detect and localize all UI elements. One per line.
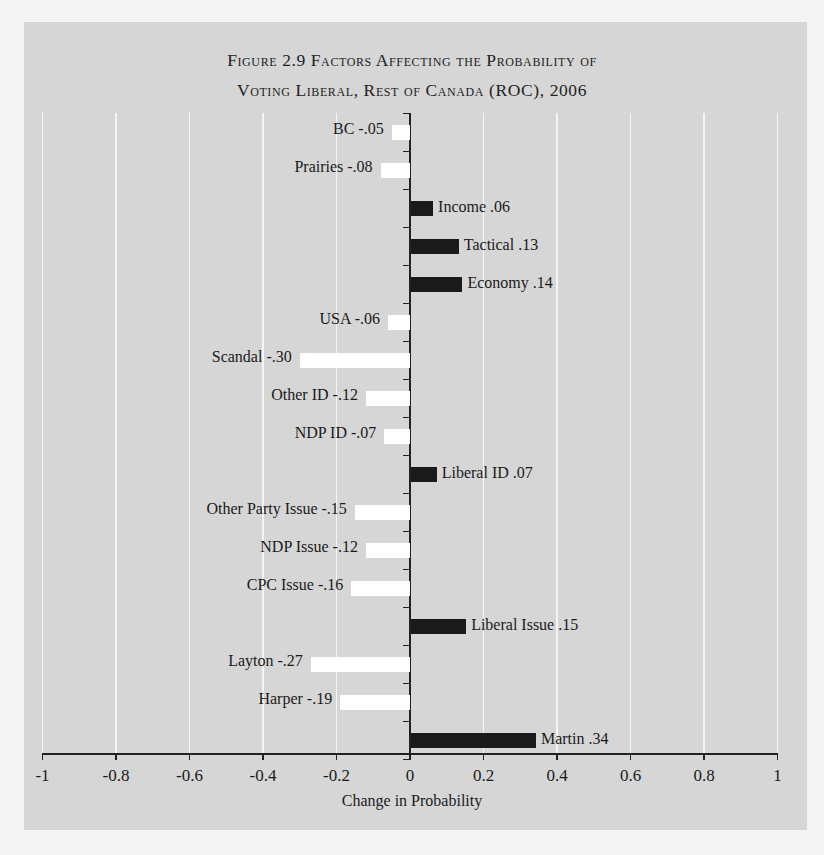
- bar-chart: -1-0.8-0.6-0.4-0.200.20.40.60.81BC -.05P…: [0, 0, 824, 855]
- bar-label: Martin .34: [541, 730, 609, 748]
- bar-label: NDP Issue -.12: [260, 538, 358, 556]
- bar-usa: [388, 315, 410, 330]
- bar-label: Other Party Issue -.15: [206, 500, 346, 518]
- gridline: [703, 113, 705, 753]
- bar-label: NDP ID -.07: [295, 424, 377, 442]
- y-axis-tick: [403, 303, 410, 304]
- y-axis-tick: [403, 531, 410, 532]
- bar-ndp-id: [384, 429, 410, 444]
- bar-label: Tactical .13: [464, 236, 538, 254]
- bar-label: CPC Issue -.16: [247, 576, 343, 594]
- bar-label: Layton -.27: [228, 652, 303, 670]
- y-axis-tick: [403, 113, 410, 114]
- bar-label: USA -.06: [320, 310, 380, 328]
- x-axis-tick-label: 1: [773, 766, 782, 786]
- x-axis-tick-label: 0.2: [473, 766, 494, 786]
- x-axis-title: Change in Probability: [0, 792, 824, 810]
- x-axis-tick-label: -0.6: [176, 766, 203, 786]
- gridline: [189, 113, 191, 753]
- x-axis-tick-label: 0.4: [546, 766, 567, 786]
- x-axis-tick-label: 0.8: [693, 766, 714, 786]
- bar-label: Harper -.19: [258, 690, 332, 708]
- x-axis-tick-label: 0.6: [620, 766, 641, 786]
- bar-label: Scandal -.30: [212, 348, 292, 366]
- bar-layton: [311, 657, 410, 672]
- bar-label: Liberal Issue .15: [471, 616, 578, 634]
- gridline: [556, 113, 558, 753]
- x-axis-tick-label: -1: [35, 766, 49, 786]
- y-axis-tick: [403, 759, 410, 760]
- y-axis-tick: [403, 493, 410, 494]
- gridline: [42, 113, 44, 753]
- bar-tactical: [411, 239, 459, 254]
- x-axis-line: [42, 753, 778, 755]
- bar-liberal-id: [411, 467, 437, 482]
- y-axis-tick: [403, 265, 410, 266]
- x-axis-tick-label: -0.8: [103, 766, 130, 786]
- y-axis-tick: [403, 151, 410, 152]
- bar-label: Prairies -.08: [294, 158, 372, 176]
- bar-label: BC -.05: [333, 120, 384, 138]
- bar-bc: [392, 125, 410, 140]
- gridline: [115, 113, 117, 753]
- x-axis-tick-label: -0.4: [250, 766, 277, 786]
- bar-label: Liberal ID .07: [442, 464, 533, 482]
- bar-ndp-issue: [366, 543, 410, 558]
- bar-label: Income .06: [438, 198, 510, 216]
- bar-harper: [340, 695, 410, 710]
- y-axis-tick: [403, 569, 410, 570]
- y-axis-tick: [403, 417, 410, 418]
- bar-cpc-issue: [351, 581, 410, 596]
- y-axis-tick: [403, 455, 410, 456]
- bar-liberal-issue: [411, 619, 466, 634]
- y-axis-tick: [403, 721, 410, 722]
- bar-economy: [411, 277, 462, 292]
- bar-label: Economy .14: [467, 274, 552, 292]
- gridline: [630, 113, 632, 753]
- bar-other-id: [366, 391, 410, 406]
- y-axis-tick: [403, 341, 410, 342]
- y-axis-tick: [403, 683, 410, 684]
- y-axis-tick: [403, 227, 410, 228]
- bar-income: [411, 201, 433, 216]
- x-axis-tick-label: 0: [406, 766, 415, 786]
- y-axis-tick: [403, 607, 410, 608]
- bar-scandal: [300, 353, 410, 368]
- bar-label: Other ID -.12: [271, 386, 358, 404]
- y-axis-tick: [403, 379, 410, 380]
- x-axis-tick-label: -0.2: [323, 766, 350, 786]
- bar-other-party-issue: [355, 505, 410, 520]
- y-axis-tick: [403, 189, 410, 190]
- gridline: [777, 113, 779, 753]
- bar-prairies: [381, 163, 410, 178]
- y-axis-tick: [403, 645, 410, 646]
- bar-martin: [411, 733, 536, 748]
